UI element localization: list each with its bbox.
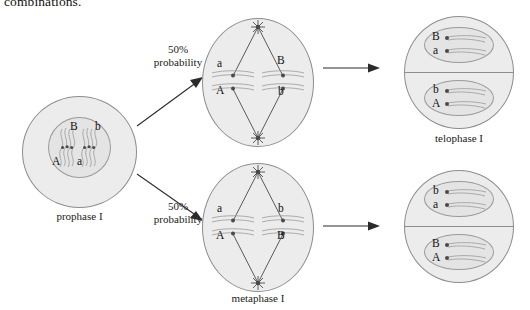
telophase-top-upper-allele-1: B	[432, 31, 440, 43]
prophase-allele-a: a	[77, 156, 82, 168]
telophase-bottom-upper-allele-2: a	[433, 199, 438, 211]
telophase-bottom-upper-allele-1: b	[433, 185, 439, 197]
metaphase-top-allele-left-lower: A	[216, 85, 224, 97]
upper-prob-value: 50%	[168, 43, 188, 55]
upper-prob-caption: probability	[154, 56, 202, 68]
telophase-top-lower-allele-2: A	[432, 98, 440, 110]
metaphase-bottom-allele-right-lower: B	[277, 230, 285, 242]
metaphase-top-allele-right-upper: B	[277, 55, 285, 67]
lower-branch-arrow	[135, 170, 210, 230]
prophase-allele-b: b	[95, 121, 101, 133]
telophase-top-arrow	[322, 60, 384, 76]
prophase-label: prophase I	[22, 210, 137, 222]
upper-branch-arrow	[135, 70, 210, 130]
metaphase-bottom-spindle	[202, 163, 314, 292]
prophase-allele-B: B	[70, 121, 78, 133]
prophase-chromosomes	[48, 117, 111, 178]
telophase-label: telophase I	[404, 132, 514, 144]
telophase-bottom-lower-allele-1: B	[432, 238, 440, 250]
prophase-allele-A: A	[52, 156, 60, 168]
page-text-fragment: combinations.	[4, 0, 81, 10]
telophase-top-lower-allele-1: b	[433, 84, 439, 96]
metaphase-bottom-allele-right-upper: b	[278, 203, 284, 215]
metaphase-top-allele-left-upper: a	[217, 58, 222, 70]
metaphase-top-spindle	[202, 18, 314, 147]
metaphase-bottom-allele-left-lower: A	[216, 230, 224, 242]
telophase-bottom-lower-allele-2: A	[432, 252, 440, 264]
meiosis-diagram: combinations. B b A a prophase I 50% pro…	[0, 0, 530, 310]
telophase-bottom-arrow	[322, 218, 384, 234]
metaphase-label: metaphase I	[202, 292, 314, 304]
telophase-top-upper-allele-2: a	[433, 45, 438, 57]
metaphase-bottom-allele-left-upper: a	[217, 203, 222, 215]
metaphase-top-allele-right-lower: b	[278, 86, 284, 98]
